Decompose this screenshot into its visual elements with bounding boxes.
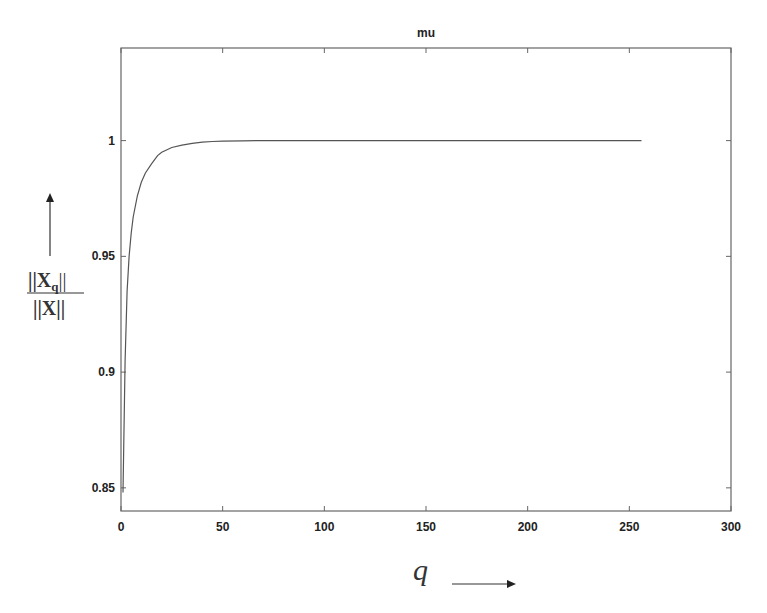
x-tick-label: 250 [619, 520, 639, 534]
y-axis-label: ||Xq|| ||X|| [27, 193, 84, 320]
y-label-num-main: ||X [28, 269, 52, 292]
y-tick-label: 1 [108, 134, 115, 148]
x-label-text: q [413, 553, 428, 586]
plot-area-frame [121, 48, 731, 511]
y-tick-label: 0.85 [92, 481, 116, 495]
x-tick-label: 150 [416, 520, 436, 534]
x-tick-label: 100 [314, 520, 334, 534]
y-tick-label: 0.95 [92, 249, 116, 263]
y-tick-label: 0.9 [98, 365, 115, 379]
x-axis-arrowhead-icon [507, 580, 516, 588]
y-label-numerator: ||Xq|| [28, 269, 67, 294]
x-tick-label: 0 [118, 520, 125, 534]
y-label-denominator: ||X|| [33, 297, 65, 320]
chart-figure: mu 050100150200250300 0.850.90.951 ||Xq|… [0, 0, 767, 613]
y-axis-arrowhead-icon [46, 193, 54, 202]
x-tick-label: 200 [518, 520, 538, 534]
chart-title: mu [417, 26, 435, 40]
x-tick-label: 300 [721, 520, 741, 534]
y-label-num-end: || [59, 269, 67, 292]
x-tick-label: 50 [216, 520, 230, 534]
x-axis-label: q [413, 553, 516, 588]
